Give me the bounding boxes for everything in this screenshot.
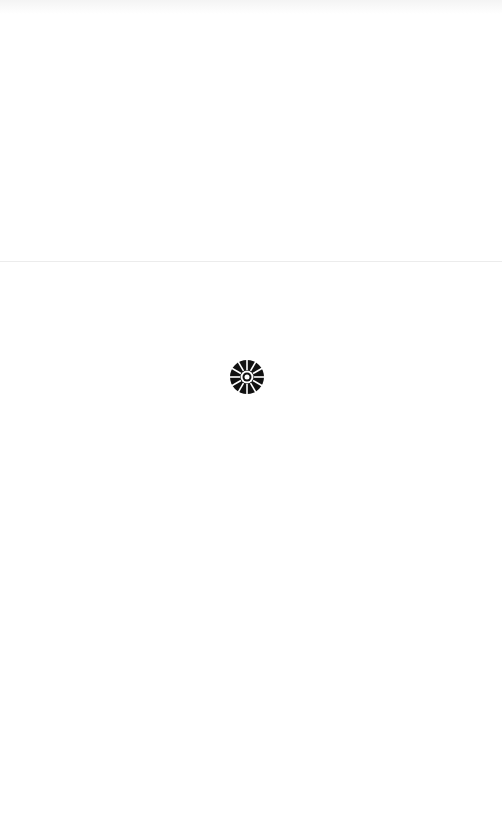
loading-screen: Loading: [0, 0, 502, 818]
top-shade: [0, 0, 502, 14]
loading-spinner: Loading: [229, 359, 265, 395]
section-divider: [0, 261, 502, 262]
loading-spinner-icon: [229, 359, 265, 395]
